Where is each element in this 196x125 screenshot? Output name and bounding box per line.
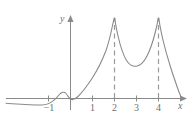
graph-figure: −1 1 2 3 4 x y — [0, 0, 196, 125]
y-axis-label: y — [60, 14, 64, 24]
x-tick-label-3: 3 — [129, 103, 144, 113]
curve-right-branch — [159, 18, 182, 98]
x-tick-label-1: 1 — [85, 103, 100, 113]
x-tick-label-minus-1: −1 — [39, 103, 59, 113]
x-tick-label-4: 4 — [151, 103, 166, 113]
curve-middle-branch — [115, 18, 158, 66]
y-axis-arrow-icon — [67, 15, 73, 22]
x-axis-label: x — [178, 101, 182, 111]
curve-left-branch — [6, 18, 114, 105]
x-tick-label-2: 2 — [107, 103, 122, 113]
